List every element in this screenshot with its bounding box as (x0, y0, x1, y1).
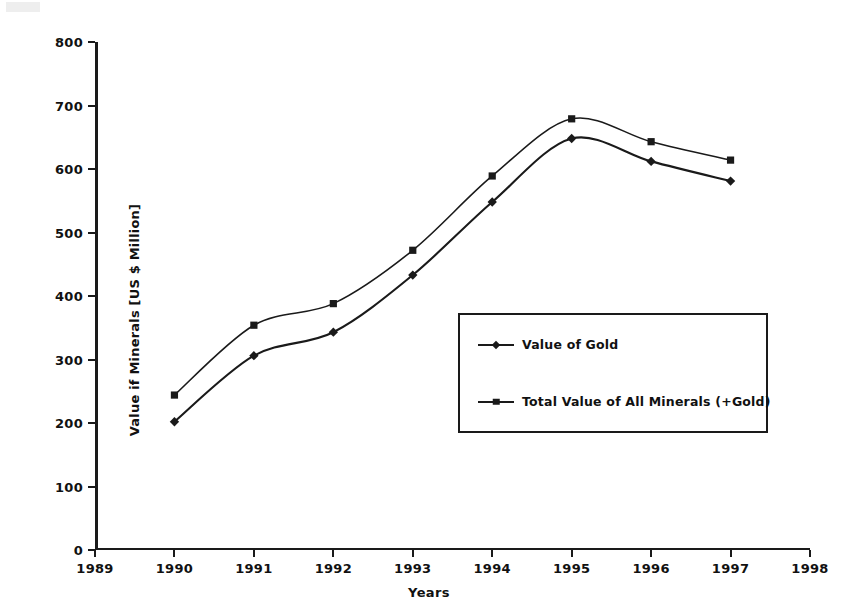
y-tick-label-300: 300 (55, 352, 83, 367)
x-tick-label-1997: 1997 (712, 561, 749, 576)
x-tick-1992 (332, 550, 334, 557)
y-tick-label-0: 0 (74, 543, 83, 558)
x-tick-1990 (173, 550, 175, 557)
x-tick-label-1991: 1991 (235, 561, 272, 576)
x-tick-1991 (253, 550, 255, 557)
legend-label: Value of Gold (522, 337, 619, 352)
scan-artifact (6, 2, 40, 12)
x-tick-1995 (571, 550, 573, 557)
data-point-diamond (646, 157, 655, 166)
y-tick-700 (88, 105, 95, 107)
legend-marker-square-icon (478, 396, 514, 408)
x-tick-label-1998: 1998 (791, 561, 828, 576)
data-point-diamond (329, 328, 338, 337)
x-tick-label-1994: 1994 (474, 561, 511, 576)
data-point-square (330, 300, 337, 307)
y-tick-label-200: 200 (55, 416, 83, 431)
x-tick-label-1995: 1995 (553, 561, 590, 576)
legend-box: Value of Gold Total Value of All Mineral… (458, 313, 768, 433)
y-tick-200 (88, 422, 95, 424)
data-point-square (727, 157, 734, 164)
y-tick-400 (88, 295, 95, 297)
legend-label: Total Value of All Minerals (+Gold) (522, 394, 771, 409)
x-tick-1993 (412, 550, 414, 557)
data-point-square (171, 391, 178, 398)
y-tick-500 (88, 232, 95, 234)
data-point-square (568, 115, 575, 122)
y-tick-label-600: 600 (55, 162, 83, 177)
x-tick-label-1996: 1996 (632, 561, 669, 576)
x-tick-label-1990: 1990 (156, 561, 193, 576)
legend-item-value-of-gold: Value of Gold (478, 337, 619, 352)
data-point-diamond (726, 176, 735, 185)
data-point-diamond (249, 351, 258, 360)
x-tick-label-1992: 1992 (315, 561, 352, 576)
x-tick-label-1993: 1993 (394, 561, 431, 576)
x-tick-1996 (650, 550, 652, 557)
legend-item-total-value-all-minerals: Total Value of All Minerals (+Gold) (478, 394, 771, 409)
x-tick-label-1989: 1989 (76, 561, 113, 576)
y-tick-label-800: 800 (55, 35, 83, 50)
data-point-diamond (567, 134, 576, 143)
y-tick-label-400: 400 (55, 289, 83, 304)
y-tick-label-100: 100 (55, 479, 83, 494)
data-point-square (648, 138, 655, 145)
x-tick-1994 (491, 550, 493, 557)
x-tick-1998 (809, 550, 811, 557)
x-tick-1989 (94, 550, 96, 557)
y-tick-100 (88, 486, 95, 488)
data-point-square (250, 322, 257, 329)
y-tick-label-700: 700 (55, 98, 83, 113)
y-tick-600 (88, 168, 95, 170)
chart-figure: Value if Minerals [US $ Million] Years 0… (0, 0, 858, 615)
y-tick-label-500: 500 (55, 225, 83, 240)
y-tick-300 (88, 359, 95, 361)
x-tick-1997 (730, 550, 732, 557)
series-plot (95, 42, 810, 550)
x-axis-title: Years (0, 585, 858, 600)
y-tick-800 (88, 41, 95, 43)
plot-area: 0100200300400500600700800 19891990199119… (95, 42, 810, 550)
legend-marker-diamond-icon (478, 339, 514, 351)
data-point-square (489, 172, 496, 179)
data-point-square (409, 247, 416, 254)
